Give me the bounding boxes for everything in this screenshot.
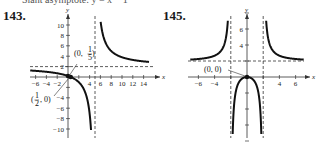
x-tick-label: 6 <box>294 80 298 88</box>
y-tick-label: 6 <box>240 26 244 34</box>
x-tick-label: 4 <box>278 80 282 88</box>
point-label-origin: (0, 0) <box>204 65 245 76</box>
function-curve <box>190 21 228 60</box>
x-tick-label: −4 <box>211 80 219 88</box>
x-axis-label: x <box>311 73 316 81</box>
x-axis-arrow-icon <box>305 75 310 79</box>
y-axis-arrow-icon <box>245 14 249 19</box>
x-tick-label: −6 <box>195 80 203 88</box>
y-tick-label: 4 <box>240 42 244 50</box>
annot-text: (0, 0) <box>204 65 222 74</box>
marked-point <box>245 75 250 80</box>
graph-problem-145: xy−6−44646(0, 0) <box>0 0 317 143</box>
function-curve <box>266 21 304 60</box>
